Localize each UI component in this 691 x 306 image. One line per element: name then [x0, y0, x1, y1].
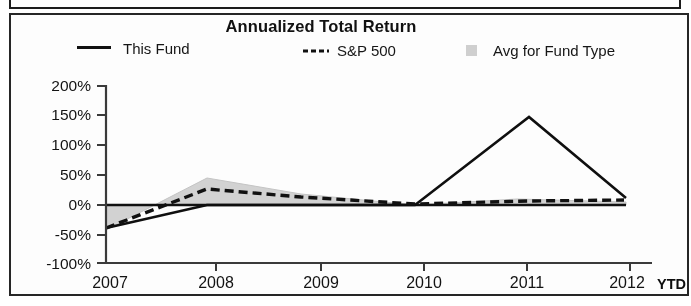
annualized-total-return-chart-panel: Annualized Total Return This Fund S&P 50… [9, 13, 689, 296]
x-axis-tick-2009: 2009 [286, 274, 356, 292]
x-axis-tick-2008: 2008 [181, 274, 251, 292]
x-axis-tick-2012: 2012 [592, 274, 662, 292]
adjacent-panel-edge [9, 0, 681, 9]
x-axis-ytd-note: YTD [657, 276, 686, 292]
x-axis-tick-2011: 2011 [492, 274, 562, 292]
x-axis-tick-labels: 2007 2008 2009 2010 2011 2012 YTD [11, 15, 691, 298]
x-axis-tick-2007: 2007 [75, 274, 145, 292]
x-axis-tick-2010: 2010 [389, 274, 459, 292]
